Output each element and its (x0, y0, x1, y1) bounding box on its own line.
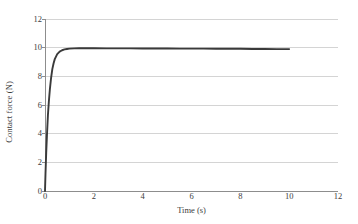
chart-figure: Contact force (N) 024681012 024681012 Ti… (0, 0, 358, 224)
x-tick-label-6: 6 (177, 192, 207, 201)
x-tick-label-10: 10 (274, 192, 304, 201)
series-line-contact-force (45, 48, 289, 191)
x-tick-label-4: 4 (128, 192, 158, 201)
plot-svg (45, 19, 338, 191)
x-axis-title: Time (s) (45, 205, 338, 215)
x-tick-label-12: 12 (323, 192, 353, 201)
gridlines (45, 19, 338, 162)
plot-area (45, 19, 338, 191)
x-tick-label-0: 0 (30, 192, 60, 201)
x-tick-label-8: 8 (225, 192, 255, 201)
x-tick-label-2: 2 (79, 192, 109, 201)
